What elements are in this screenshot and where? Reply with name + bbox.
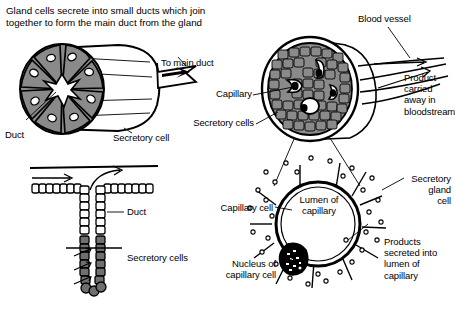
tubule-secretory-right <box>95 236 105 284</box>
label-blood-vessel: Blood vessel <box>358 13 411 24</box>
label-lumen-of-capillary: Lumen of capillary <box>286 194 352 216</box>
tubular-gland-illustration <box>30 166 158 296</box>
blood-vessel-leader-line <box>388 27 410 58</box>
label-secretory-cells-tubular: Secretory cells <box>127 252 188 263</box>
tubule-wall-right <box>96 186 105 234</box>
acinus-cell-rosette <box>20 44 104 134</box>
label-products-secreted: Products secreted into lumen of capillar… <box>384 236 437 281</box>
label-capillary-cell: Capillary cell <box>188 202 273 213</box>
capillary-nucleus <box>280 243 308 275</box>
label-product-carried-away: Product carried away in bloodstream <box>404 72 455 117</box>
label-secretory-cells-endocrine: Secretory cells <box>166 117 254 128</box>
label-duct-tubular: Duct <box>127 206 146 217</box>
label-to-main-duct: To main duct <box>161 57 214 68</box>
label-secretory-cell: Secretory cell <box>113 132 169 143</box>
label-capillary: Capillary <box>190 88 252 99</box>
tubule-wall-left <box>80 186 89 234</box>
label-nucleus-of-capillary-cell: Nucleus of capillary cell <box>188 258 276 280</box>
label-secretory-gland-cell: Secretory gland cell <box>389 173 451 207</box>
label-duct-acinus: Duct <box>5 129 24 140</box>
